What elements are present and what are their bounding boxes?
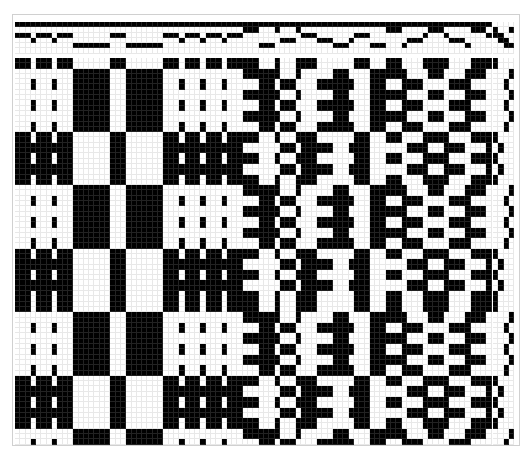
tieup-grid[interactable] [493, 22, 514, 54]
tieup-cell[interactable] [509, 48, 514, 53]
treadling-cell[interactable] [509, 439, 514, 444]
treadling-grid[interactable] [493, 58, 514, 445]
threading-cell[interactable] [486, 48, 491, 53]
drawdown-cell [486, 439, 491, 444]
drawdown-grid [15, 58, 492, 445]
threading-grid[interactable] [15, 22, 492, 54]
